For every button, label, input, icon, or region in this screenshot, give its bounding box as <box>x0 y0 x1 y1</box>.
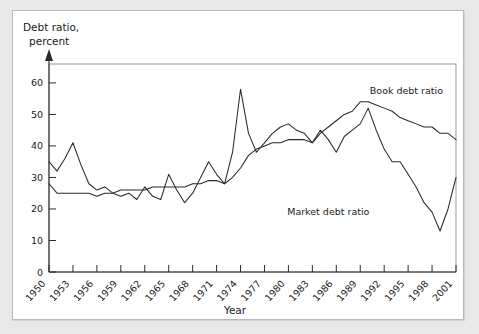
x-tick-label: 1965 <box>143 278 167 303</box>
x-tick-label: 1959 <box>95 278 119 303</box>
x-tick-group: 1950195319561959196219651968197119741977… <box>23 265 456 303</box>
x-tick-label: 1977 <box>239 278 263 303</box>
x-tick-label: 1992 <box>358 278 382 303</box>
y-tick-label: 40 <box>31 140 43 151</box>
y-tick-label: 60 <box>31 77 43 88</box>
x-tick-label: 2001 <box>430 278 454 303</box>
x-tick-label: 1974 <box>215 278 239 303</box>
x-tick-label: 1983 <box>286 278 310 303</box>
y-tick-label: 30 <box>31 172 43 183</box>
y-tick-group: 0102030405060 <box>31 77 56 277</box>
debt-ratio-line-chart: Debt ratio, percent 0102030405060 195019… <box>13 11 465 321</box>
x-tick-label: 1953 <box>47 278 71 303</box>
figure-frame: Debt ratio, percent 0102030405060 195019… <box>12 10 464 320</box>
y-tick-label: 0 <box>37 267 43 278</box>
y-axis-title-line1: Debt ratio, <box>23 21 79 33</box>
y-tick-label: 50 <box>31 109 43 120</box>
x-tick-label: 1989 <box>334 278 358 303</box>
x-axis-title: Year <box>223 304 247 316</box>
x-tick-label: 1971 <box>191 278 215 303</box>
y-tick-label: 20 <box>31 203 43 214</box>
series-line-market-debt-ratio <box>49 89 456 231</box>
x-tick-label: 1998 <box>406 278 430 303</box>
y-tick-label: 10 <box>31 235 43 246</box>
x-tick-label: 1956 <box>71 278 95 303</box>
x-tick-label: 1962 <box>119 278 143 303</box>
y-axis-title-line2: percent <box>29 35 69 47</box>
x-tick-label: 1950 <box>23 278 47 303</box>
series-label-market-debt-ratio: Market debt ratio <box>287 206 369 217</box>
x-tick-label: 1980 <box>263 278 287 303</box>
series-line-book-debt-ratio <box>49 102 456 197</box>
series-label-book-debt-ratio: Book debt ratio <box>370 85 443 96</box>
x-tick-label: 1986 <box>310 278 334 303</box>
x-tick-label: 1968 <box>167 278 191 303</box>
x-tick-label: 1995 <box>382 278 406 303</box>
